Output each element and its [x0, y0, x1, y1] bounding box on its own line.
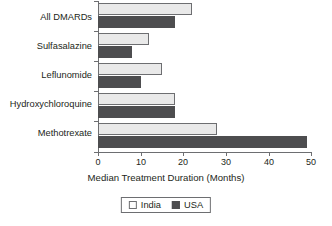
x-axis-line: [98, 152, 312, 153]
bar-usa-sulfasalazine: [98, 46, 132, 58]
x-axis-tick: [226, 152, 227, 156]
x-tick-label-0: 0: [95, 157, 100, 167]
x-axis-tick: [98, 152, 99, 156]
bar-india-methotrexate: [98, 123, 217, 135]
legend-item-usa: USA: [172, 200, 203, 210]
bar-usa-methotrexate: [98, 136, 307, 148]
bar-usa-leflunomide: [98, 76, 141, 88]
x-axis-title: Median Treatment Duration (Months): [0, 172, 332, 183]
category-label-leflunomide: Leflunomide: [41, 70, 92, 80]
x-axis-tick: [311, 152, 312, 156]
bar-india-leflunomide: [98, 63, 162, 75]
bar-india-all-dmards: [98, 3, 192, 15]
bar-usa-all-dmards: [98, 16, 175, 28]
x-tick-label-50: 50: [306, 157, 316, 167]
category-label-all-dmards: All DMARDs: [40, 12, 92, 22]
bar-india-sulfasalazine: [98, 33, 149, 45]
x-axis-tick: [141, 152, 142, 156]
legend-label-india: India: [141, 200, 161, 210]
x-tick-label-40: 40: [264, 157, 274, 167]
dark-square-swatch-icon: [172, 201, 180, 209]
x-tick-label-10: 10: [136, 157, 146, 167]
legend-label-usa: USA: [184, 200, 203, 210]
category-label-sulfasalazine: Sulfasalazine: [37, 41, 92, 51]
light-square-swatch-icon: [129, 201, 137, 209]
chart-legend: India USA: [121, 197, 211, 213]
x-axis-tick: [269, 152, 270, 156]
x-tick-label-20: 20: [178, 157, 188, 167]
legend-item-india: India: [129, 200, 161, 210]
category-axis-labels: All DMARDs Sulfasalazine Leflunomide Hyd…: [0, 0, 96, 152]
bar-chart: All DMARDs Sulfasalazine Leflunomide Hyd…: [0, 0, 332, 226]
bar-india-hydroxychloroquine: [98, 93, 175, 105]
plot-area: [98, 1, 311, 152]
category-label-methotrexate: Methotrexate: [38, 128, 92, 138]
bar-usa-hydroxychloroquine: [98, 106, 175, 118]
category-label-hydroxychloroquine: Hydroxychloroquine: [10, 99, 92, 109]
x-axis-tick: [183, 152, 184, 156]
x-tick-label-30: 30: [221, 157, 231, 167]
